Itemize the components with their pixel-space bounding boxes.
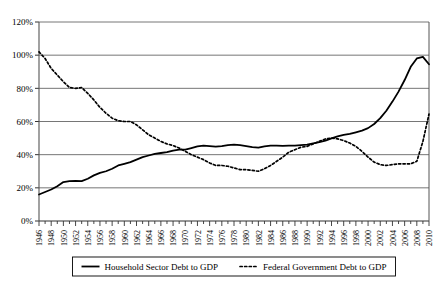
x-axis-tick-label: 2006 xyxy=(401,230,410,246)
x-axis-tick-label: 1972 xyxy=(194,230,203,246)
legend-label-household: Household Sector Debt to GDP xyxy=(105,262,218,272)
y-axis-tick-label: 20% xyxy=(17,183,34,193)
x-axis-tick-label: 1998 xyxy=(352,230,361,246)
chart-container: 0%20%40%60%80%100%120% 19461948195019521… xyxy=(0,0,440,283)
x-axis-tick-label: 1948 xyxy=(47,230,56,246)
x-axis-tick-label: 1976 xyxy=(218,230,227,246)
debt-to-gdp-line-chart: 0%20%40%60%80%100%120% 19461948195019521… xyxy=(0,0,440,283)
x-axis-tick-label: 1950 xyxy=(60,230,69,246)
x-axis-tick-label: 1958 xyxy=(108,230,117,246)
y-axis-tick-label: 120% xyxy=(12,17,34,27)
x-axis-tick-label: 1962 xyxy=(133,230,142,246)
x-axis-tick-label: 1956 xyxy=(96,230,105,246)
x-axis-tick-label: 1946 xyxy=(35,230,44,246)
x-axis-tick-label: 1970 xyxy=(181,230,190,246)
x-axis-tick-label: 1974 xyxy=(206,230,215,246)
x-axis-tick-label: 2008 xyxy=(413,230,422,246)
x-axis-tick-label: 1954 xyxy=(84,230,93,246)
x-axis-tick-label: 1986 xyxy=(279,230,288,246)
x-axis-tick-label: 1982 xyxy=(255,230,264,246)
x-axis-tick-label: 1966 xyxy=(157,230,166,246)
y-axis-tick-label: 60% xyxy=(17,117,34,127)
legend-label-federal: Federal Government Debt to GDP xyxy=(263,262,386,272)
x-axis-tick-label: 1980 xyxy=(242,230,251,246)
y-axis-tick-label: 100% xyxy=(12,50,34,60)
x-axis-tick-label: 1984 xyxy=(267,230,276,246)
x-axis-tick-label: 1960 xyxy=(121,230,130,246)
x-axis-tick-label: 2010 xyxy=(425,230,434,246)
x-axis-tick-label: 1964 xyxy=(145,230,154,246)
x-axis-tick-label: 1978 xyxy=(230,230,239,246)
x-axis-tick-label: 1996 xyxy=(340,230,349,246)
x-axis-tick-label: 1968 xyxy=(169,230,178,246)
x-axis-tick-label: 1990 xyxy=(303,230,312,246)
x-axis-tick-label: 2000 xyxy=(364,230,373,246)
y-axis-tick-label: 0% xyxy=(21,216,34,226)
chart-legend: Household Sector Debt to GDP Federal Gov… xyxy=(73,257,396,276)
x-axis-tick-label: 1992 xyxy=(316,230,325,246)
x-axis-tick-label: 1988 xyxy=(291,230,300,246)
x-axis-tick-label: 1952 xyxy=(72,230,81,246)
x-axis-tick-label: 2002 xyxy=(376,230,385,246)
x-axis-tick-label: 2004 xyxy=(389,230,398,246)
y-axis-tick-label: 40% xyxy=(17,150,34,160)
y-axis-tick-label: 80% xyxy=(17,84,34,94)
x-axis-tick-label: 1994 xyxy=(328,230,337,246)
